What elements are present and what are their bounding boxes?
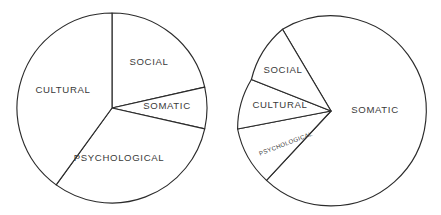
left-pie-label-somatic: SOMATIC: [143, 100, 191, 111]
pie-chart-svg: SOCIAL SOMATIC PSYCHOLOGICAL CULTURAL SO…: [0, 0, 441, 215]
left-pie-label-social: SOCIAL: [129, 56, 168, 67]
left-pie-label-psychological: PSYCHOLOGICAL: [74, 152, 165, 163]
right-pie-label-somatic: SOMATIC: [351, 104, 399, 115]
right-pie-chart: SOMATIC PSYCHOLOGICAL CULTURAL SOCIAL: [238, 16, 427, 206]
left-pie-chart: SOCIAL SOMATIC PSYCHOLOGICAL CULTURAL: [17, 13, 207, 203]
right-pie-label-social: SOCIAL: [263, 64, 302, 75]
pie-chart-figure: SOCIAL SOMATIC PSYCHOLOGICAL CULTURAL SO…: [0, 0, 441, 215]
right-pie-label-cultural: CULTURAL: [252, 99, 307, 110]
left-pie-label-cultural: CULTURAL: [35, 84, 90, 95]
